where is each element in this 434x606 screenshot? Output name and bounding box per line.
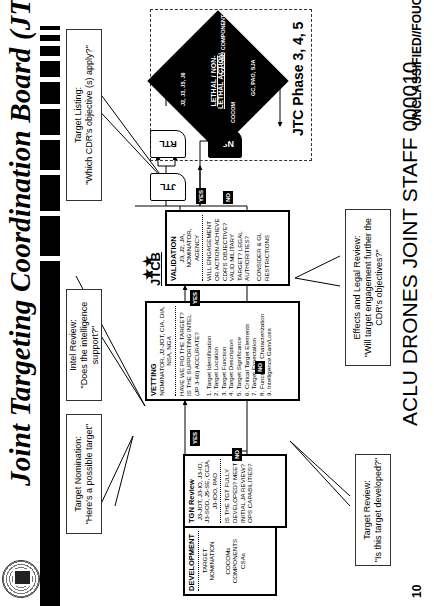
development-line: CSAs	[239, 531, 247, 591]
tgn-review-participants: J3-JOT, J3-IO, J3-IO, J3-SOD, J5-SE, CCJ…	[196, 459, 219, 523]
diamond-left-text: COCOM	[230, 102, 236, 123]
jtcb-label: JTCB	[148, 252, 163, 286]
yes-tag: YES	[190, 290, 200, 306]
vetting-item: 9. Intelligence Gain/Loss	[265, 306, 273, 396]
development-box: DEVELOPMENT TARGET NOMINATION COCOMs COM…	[183, 526, 277, 596]
development-line: NOMINATION	[208, 531, 216, 591]
vetting-heading: VETTING	[150, 306, 158, 396]
diamond-center-line: LETHAL / NON-	[210, 46, 217, 116]
callout-title: Target Listing:	[73, 30, 84, 200]
development-line: COCOMs	[224, 531, 232, 591]
tgn-review-heading: TGN Review	[188, 459, 196, 523]
page-number: 10	[410, 585, 424, 598]
jtl-list: JTL	[150, 173, 186, 201]
validation-participants: J3, J2, JA, NOMINATOR, AGENCY	[178, 215, 201, 281]
yes-tag: YES	[190, 430, 200, 446]
yes-tag: YES	[196, 188, 206, 204]
diamond-right-text: GC, PAO, SJA	[250, 59, 256, 96]
vetting-box: VETTING NOMINATOR, J2-JOT, CIA, DIA, NSA…	[145, 301, 300, 401]
callout-question: "Here's a possible target"	[84, 415, 95, 533]
validation-box: VALIDATION J3, J2, JA, NOMINATOR, AGENCY…	[165, 210, 290, 286]
vetting-item: 4. Target Description	[227, 306, 235, 396]
no-tag: NO	[255, 361, 265, 374]
callout-question: "Is this target developed?"	[373, 455, 384, 565]
callout-title: Intel Review:	[68, 290, 79, 400]
vetting-item: 5. Target Significance	[235, 306, 243, 396]
vetting-item: 7. Target Expectation	[250, 306, 258, 396]
callout-title: Target Nomination:	[73, 415, 84, 533]
callout-title: Target Review:	[362, 455, 373, 565]
jtl-label: JTL	[160, 182, 176, 192]
tgn-review-box: TGN Review J3-JOT, J3-IO, J3-IO, J3-SOD,…	[183, 454, 287, 528]
vetting-item: 8. Functional Characterization	[258, 306, 266, 396]
callout-title: Effects and Legal Review:	[352, 210, 363, 365]
callout-effects-legal-review: Effects and Legal Review: "Will target e…	[345, 209, 391, 366]
vetting-item: 6. Critical Target Elements	[243, 306, 251, 396]
callout-question: "Does the intelligence support?"	[79, 290, 101, 400]
no-tag: NO	[223, 191, 233, 204]
validation-note: CONSIDER & GL RESTRICTIONS	[255, 215, 270, 281]
vetting-item: 3. Target Function	[220, 306, 228, 396]
validation-question: WILL ENGAGEMENT OR ACTION ACHIEVE CDR'S …	[205, 215, 251, 281]
development-heading: DEVELOPMENT	[188, 531, 196, 591]
development-line: COMPONENTS	[231, 531, 239, 591]
validation-heading: VALIDATION	[170, 215, 178, 281]
development-line: TARGET	[201, 531, 209, 591]
callout-question: "Which CDR's objective (s) apply?"	[84, 30, 95, 200]
classification-marking: UNCLASSIFIED//FOUO	[410, 0, 424, 126]
vetting-item: 2. Target Location	[212, 306, 220, 396]
vetting-question: HAVE WE PID THE TARGET? IS THE SUPPORTIN…	[178, 306, 201, 396]
callout-question: "Will target engagement further the CDR'…	[363, 210, 385, 365]
vetting-item: 1. Target Identification	[205, 306, 213, 396]
document-page: Joint Targeting Coordination Board (JTCB…	[0, 0, 434, 606]
callout-target-review: Target Review: "Is this target developed…	[355, 454, 391, 566]
callout-intel-review: Intel Review: "Does the intelligence sup…	[66, 289, 102, 401]
callout-target-listing: Target Listing: "Which CDR's objective (…	[66, 29, 102, 201]
star-icon: ★	[150, 75, 165, 88]
callout-target-nomination: Target Nomination: "Here's a possible ta…	[66, 414, 102, 534]
diamond-top-text: J2, J3, J5, J6	[180, 72, 186, 106]
no-tag: NO	[232, 448, 242, 461]
tgn-review-question: IS THE TGT FULLY DEVELOPED? MEET INITIAL…	[223, 459, 253, 523]
vetting-participants: NOMINATOR, J2-JOT, CIA, DIA, NSA, NGA	[158, 306, 173, 396]
jtc-phase-label: JTC Phase 3, 4, 5	[290, 22, 306, 136]
diamond-bottom-text: COCOM / COMPONENT	[220, 15, 226, 76]
